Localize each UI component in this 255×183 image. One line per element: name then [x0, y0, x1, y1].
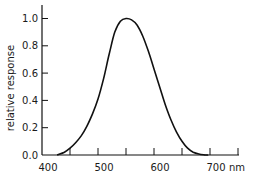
x-tick-label: 500: [94, 162, 113, 173]
y-axis: 0.00.20.40.60.81.0: [22, 5, 48, 161]
y-tick-label: 0.6: [22, 68, 38, 79]
x-tick-label: 600: [150, 162, 169, 173]
y-tick-label: 1.0: [22, 13, 38, 24]
x-tick-label: 700: [206, 162, 225, 173]
x-axis: 400500600700: [38, 148, 239, 173]
y-tick-label: 0.0: [22, 150, 38, 161]
y-tick-label: 0.8: [22, 40, 38, 51]
x-tick-label: 400: [38, 162, 57, 173]
y-axis-title: relative response: [5, 45, 16, 131]
luminosity-chart: 0.00.20.40.60.81.0 400500600700 relative…: [0, 0, 255, 183]
response-curve: [57, 18, 208, 155]
y-tick-label: 0.4: [22, 95, 38, 106]
y-tick-label: 0.2: [22, 122, 38, 133]
x-axis-unit: nm: [229, 162, 245, 173]
